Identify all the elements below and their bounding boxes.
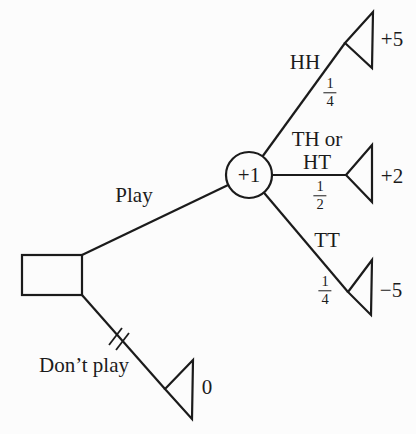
branch-hh-label: HH [290, 51, 320, 74]
branch-play-label: Play [115, 184, 152, 207]
probability-tt-numerator: 1 [318, 274, 331, 290]
decision-tree-figure: Play Don’t play HH TH or HT TT 1 4 1 2 1… [0, 0, 416, 434]
payoff-tt: −5 [380, 279, 402, 302]
chance-node-value: +1 [238, 164, 260, 187]
probability-th-ht: 1 2 [313, 179, 326, 212]
probability-th-ht-denominator: 2 [313, 196, 326, 213]
branch-th-ht-label-line1: TH or [292, 128, 343, 151]
payoff-dont-play: 0 [202, 376, 213, 399]
branch-th-ht-label-line2: HT [292, 151, 343, 174]
probability-hh: 1 4 [323, 76, 336, 109]
decision-node-square [22, 255, 82, 295]
terminal-node-tt [348, 260, 372, 315]
terminal-node-th-ht [346, 145, 372, 202]
probability-tt-denominator: 4 [318, 291, 331, 308]
payoff-th-ht: +2 [381, 165, 403, 188]
terminal-node-dont-play [165, 360, 193, 419]
branch-play-line [82, 175, 249, 255]
terminal-node-hh [345, 12, 373, 68]
probability-tt: 1 4 [318, 274, 331, 307]
branch-dont-play-label: Don’t play [39, 354, 129, 377]
probability-hh-denominator: 4 [323, 93, 336, 110]
probability-hh-numerator: 1 [323, 76, 336, 92]
payoff-hh: +5 [381, 28, 403, 51]
probability-th-ht-numerator: 1 [313, 179, 326, 195]
branch-tt-label: TT [314, 229, 340, 252]
branch-th-ht-label: TH or HT [292, 128, 343, 174]
